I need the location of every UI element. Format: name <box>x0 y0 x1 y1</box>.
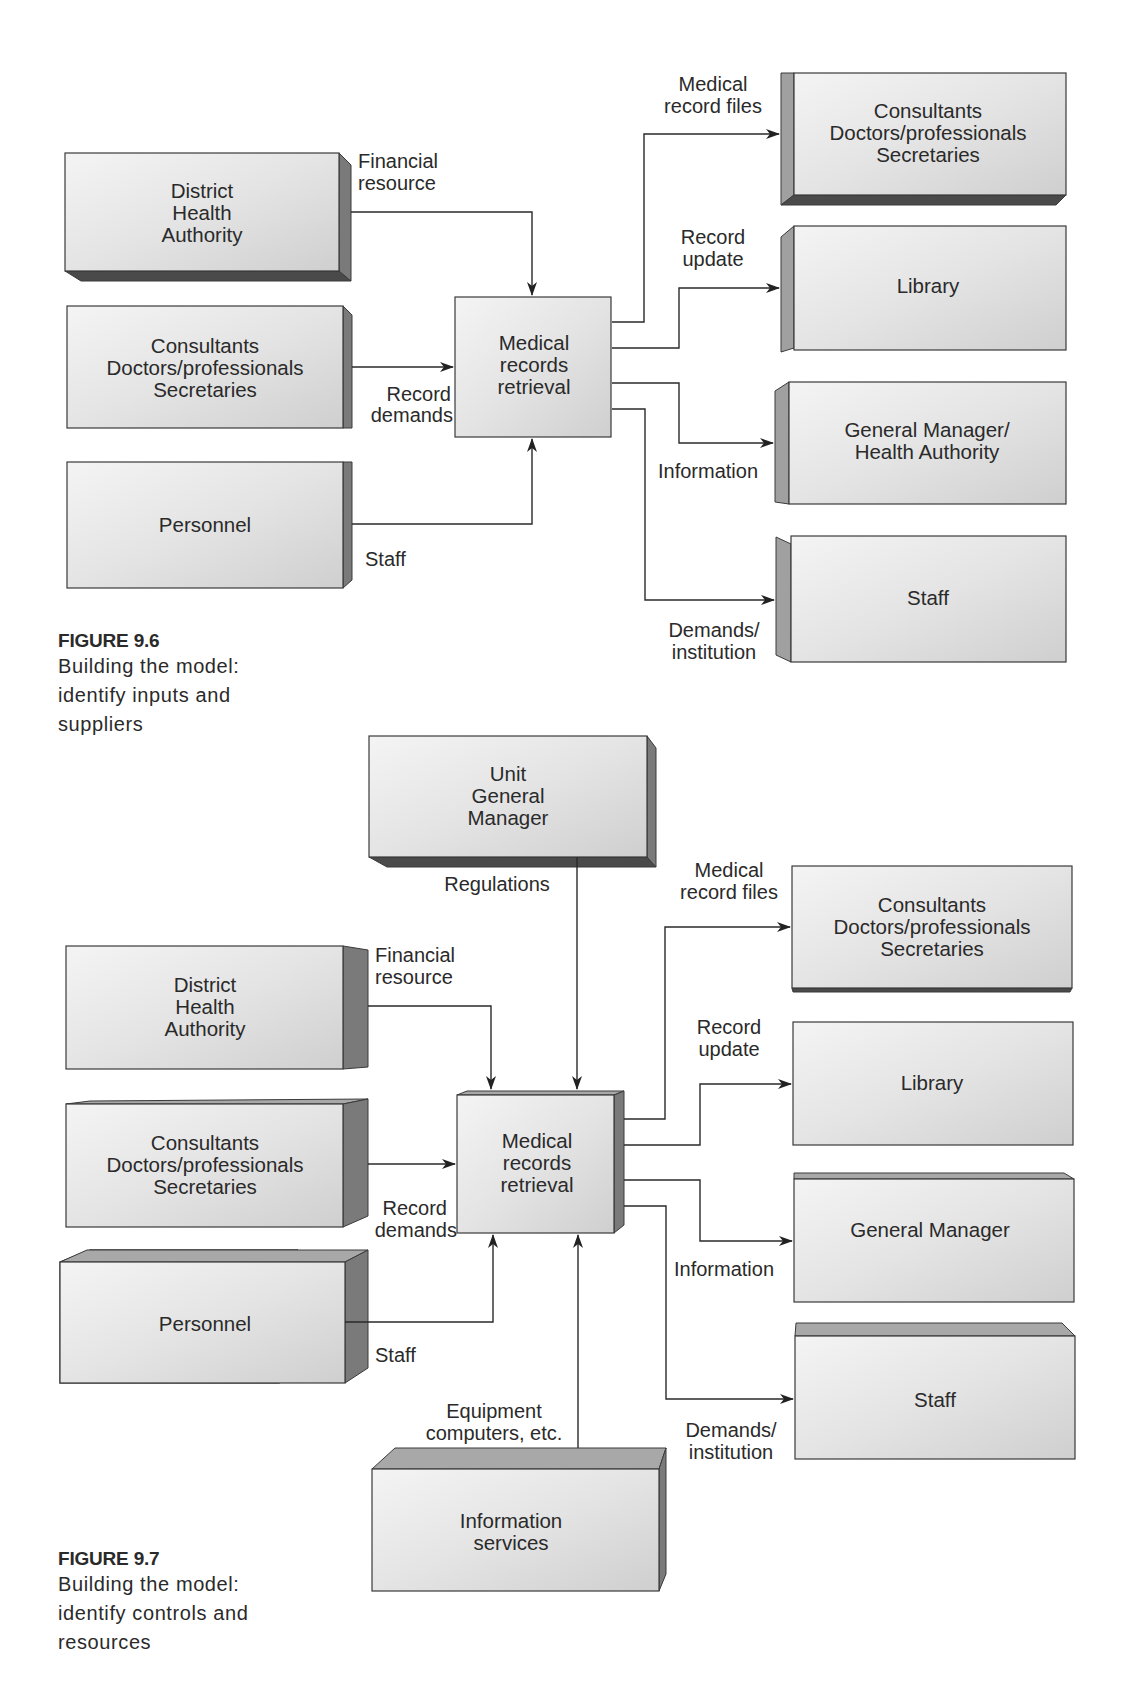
box-label: Health <box>175 995 234 1018</box>
figure-9-6: District Health Authority Consultants Do… <box>65 73 1066 663</box>
box-label: District <box>171 179 234 202</box>
box-label: Library <box>901 1071 964 1094</box>
input-label-staff: Staff <box>365 548 406 570</box>
box-label: Consultants <box>151 1131 259 1154</box>
supplier-box-district-health-authority: District Health Authority <box>65 153 351 281</box>
caption-line: Building the model: <box>58 1570 248 1599</box>
control-box-unit-general-manager: Unit General Manager <box>369 736 656 867</box>
caption-line: identify controls and <box>58 1599 248 1628</box>
arrow-information <box>612 383 773 443</box>
resource-label-equipment: Equipment <box>446 1400 542 1422</box>
caption-line: Building the model: <box>58 652 240 681</box>
box-label: Secretaries <box>876 143 980 166</box>
customer-box-general-manager: General Manager <box>794 1173 1074 1302</box>
box-label: Doctors/professionals <box>106 1153 303 1176</box>
box-label: retrieval <box>498 375 571 398</box>
box-label: Consultants <box>151 334 259 357</box>
output-label-demands-institution: Demands/ <box>668 619 760 641</box>
box-label: Doctors/professionals <box>833 915 1030 938</box>
output-label-medical-record-files: record files <box>680 881 778 903</box>
output-label-medical-record-files: record files <box>664 95 762 117</box>
arrow-record-update <box>612 288 779 348</box>
output-label-medical-record-files: Medical <box>679 73 748 95</box>
input-label-financial: resource <box>358 172 436 194</box>
input-label-financial: resource <box>375 966 453 988</box>
customer-box-library: Library <box>793 1022 1073 1145</box>
output-label-demands-institution: institution <box>672 641 757 663</box>
customer-box-staff: Staff <box>795 1323 1075 1459</box>
resource-box-information-services: Information services <box>372 1448 666 1591</box>
customer-box-general-manager-health-authority: General Manager/ Health Authority <box>775 382 1066 504</box>
output-label-demands-institution: institution <box>689 1441 774 1463</box>
output-label-record-update: update <box>682 248 743 270</box>
arrow-financial-resource <box>351 212 532 295</box>
box-label: Library <box>897 274 960 297</box>
box-label: Doctors/professionals <box>829 121 1026 144</box>
box-label: Staff <box>914 1388 956 1411</box>
arrow-record-update <box>624 1084 791 1145</box>
box-label: Secretaries <box>880 937 984 960</box>
output-label-demands-institution: Demands/ <box>685 1419 777 1441</box>
box-label: Health Authority <box>855 440 1000 463</box>
box-label: Unit <box>490 762 527 785</box>
figure-9-7-caption: FIGURE 9.7 Building the model: identify … <box>58 1548 248 1657</box>
box-label: Personnel <box>159 513 251 536</box>
box-label: Information <box>460 1509 563 1532</box>
output-label-record-update: Record <box>681 226 745 248</box>
supplier-box-consultants: Consultants Doctors/professionals Secret… <box>66 1099 368 1227</box>
input-label-record-demands: demands <box>375 1219 457 1241</box>
arrow-information <box>624 1180 792 1241</box>
input-label-record-demands: Record <box>387 383 451 405</box>
output-label-record-update: update <box>698 1038 759 1060</box>
box-label: Secretaries <box>153 378 257 401</box>
input-label-financial: Financial <box>375 944 455 966</box>
box-label: records <box>503 1151 571 1174</box>
box-label: Health <box>172 201 231 224</box>
process-box-medical-records-retrieval: Medical records retrieval <box>455 297 611 437</box>
box-label: General <box>472 784 545 807</box>
arrow-staff <box>352 439 532 524</box>
box-label: District <box>174 973 237 996</box>
box-label: Secretaries <box>153 1175 257 1198</box>
supplier-box-personnel: Personnel <box>67 462 352 588</box>
caption-line: identify inputs and <box>58 681 240 710</box>
customer-box-staff: Staff <box>776 536 1066 662</box>
input-label-financial: Financial <box>358 150 438 172</box>
process-box-medical-records-retrieval: Medical records retrieval <box>457 1091 624 1233</box>
customer-box-consultants: Consultants Doctors/professionals Secret… <box>792 866 1072 992</box>
box-label: Personnel <box>159 1312 251 1335</box>
box-label: General Manager <box>850 1218 1010 1241</box>
input-label-record-demands: demands <box>371 404 453 426</box>
box-label: Staff <box>907 586 949 609</box>
box-label: Manager <box>468 806 549 829</box>
box-label: General Manager/ <box>844 418 1010 441</box>
caption-title: FIGURE 9.6 <box>58 630 240 652</box>
customer-box-library: Library <box>781 226 1066 352</box>
input-label-staff: Staff <box>375 1344 416 1366</box>
box-label: Consultants <box>874 99 982 122</box>
supplier-box-district-health-authority: District Health Authority <box>66 946 368 1069</box>
arrow-financial-resource <box>368 1006 491 1089</box>
box-label: Authority <box>165 1017 247 1040</box>
box-label: Medical <box>499 331 570 354</box>
output-label-information: Information <box>674 1258 774 1280</box>
box-label: Consultants <box>878 893 986 916</box>
caption-line: resources <box>58 1628 248 1657</box>
output-label-medical-record-files: Medical <box>695 859 764 881</box>
box-label: records <box>500 353 568 376</box>
output-label-information: Information <box>658 460 758 482</box>
control-label-regulations: Regulations <box>444 873 550 895</box>
caption-line: suppliers <box>58 710 240 739</box>
supplier-box-consultants: Consultants Doctors/professionals Secret… <box>67 306 352 428</box>
box-label: Medical <box>502 1129 573 1152</box>
resource-label-equipment: computers, etc. <box>426 1422 563 1444</box>
supplier-box-personnel-body: Personnel <box>60 1250 368 1383</box>
arrow-demands-institution <box>612 409 774 600</box>
box-label: Doctors/professionals <box>106 356 303 379</box>
input-label-record-demands: Record <box>383 1197 447 1219</box>
box-label: retrieval <box>501 1173 574 1196</box>
box-label: services <box>473 1531 548 1554</box>
box-label: Authority <box>162 223 244 246</box>
caption-title: FIGURE 9.7 <box>58 1548 248 1570</box>
figure-9-6-caption: FIGURE 9.6 Building the model: identify … <box>58 630 240 739</box>
